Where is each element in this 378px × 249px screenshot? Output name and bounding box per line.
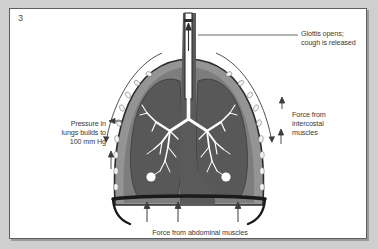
rib bbox=[260, 184, 265, 191]
rib bbox=[260, 152, 265, 159]
rib bbox=[114, 152, 119, 159]
label-abdominal-muscles: Force from abdominal muscles bbox=[120, 228, 280, 237]
rib bbox=[118, 104, 125, 112]
rib bbox=[252, 104, 259, 112]
intercostal-pointers bbox=[278, 97, 284, 144]
diagram-panel: 3 bbox=[9, 8, 367, 239]
alveolar-sac bbox=[221, 172, 230, 181]
glottis bbox=[184, 19, 193, 22]
label-glottis-opens: Glottis opens; cough is released bbox=[301, 29, 367, 47]
label-intercostal-muscles: Force from intercostal muscles bbox=[292, 110, 362, 138]
rib bbox=[114, 168, 119, 175]
label-lung-pressure: Pressure in lungs builds to 100 mm Hg bbox=[36, 119, 106, 147]
panel-number: 3 bbox=[18, 13, 23, 23]
alveolar-sac bbox=[146, 172, 155, 181]
rib bbox=[114, 184, 119, 191]
diagram-page: 3 bbox=[0, 0, 378, 249]
rib bbox=[260, 168, 265, 175]
